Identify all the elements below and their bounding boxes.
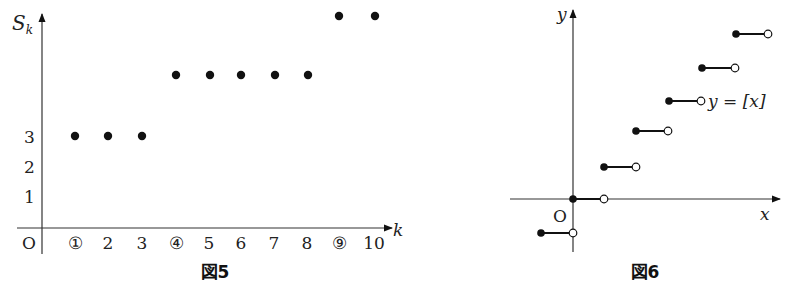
fig6-origin-label: O	[553, 206, 567, 226]
data-point	[138, 132, 146, 140]
fig6-caption: 図6	[631, 262, 660, 282]
fig5-y-tick: 2	[24, 157, 35, 177]
fig5-x-tick: ①	[68, 233, 83, 253]
step-segment	[665, 97, 705, 105]
fig5-x-tick: 10	[363, 233, 385, 253]
fig5-x-axis-label: k	[393, 220, 403, 240]
data-point	[206, 71, 214, 79]
data-point	[172, 71, 180, 79]
fig5-x-tick: 3	[137, 233, 148, 253]
data-point	[237, 71, 245, 79]
step-segment	[632, 127, 672, 135]
fig6-curve-label: y = [x]	[707, 91, 766, 111]
data-point	[371, 12, 379, 20]
fig6-step-segments	[537, 30, 772, 237]
data-point	[271, 71, 279, 79]
fig5-origin-label: O	[22, 233, 36, 253]
step-segment	[698, 64, 739, 72]
fig5-y-axis-label: Sk	[12, 11, 33, 37]
fig5-x-tick: 5	[204, 233, 215, 253]
step-segment	[732, 30, 772, 38]
step-segment	[569, 195, 608, 203]
fig5-y-tick: 3	[24, 127, 35, 147]
data-point	[104, 132, 112, 140]
step-segment	[600, 163, 640, 171]
fig5-x-tick: 6	[236, 233, 247, 253]
data-point	[304, 71, 312, 79]
figure-5: Sk k O 3 2 1 ① 2 3 ④ 5 6 7 8 ⑨ 10	[12, 11, 403, 282]
figure-6: y x O	[510, 4, 780, 282]
fig5-x-tick: 8	[302, 233, 313, 253]
fig6-x-axis-label: x	[760, 204, 770, 224]
fig5-data-points	[71, 12, 379, 140]
data-point	[335, 12, 343, 20]
data-point	[71, 132, 79, 140]
fig5-x-tick: 2	[103, 233, 114, 253]
fig5-caption: 図5	[201, 262, 230, 282]
fig5-x-tick: ④	[169, 233, 184, 253]
fig5-x-tick: 7	[269, 233, 280, 253]
fig5-y-tick: 1	[24, 187, 35, 207]
step-segment	[537, 229, 577, 237]
fig6-y-axis-label: y	[556, 4, 567, 24]
fig5-x-ticks: ① 2 3 ④ 5 6 7 8 ⑨ 10	[68, 233, 385, 253]
figure-canvas: Sk k O 3 2 1 ① 2 3 ④ 5 6 7 8 ⑨ 10	[0, 0, 788, 291]
fig5-x-tick: ⑨	[332, 233, 347, 253]
